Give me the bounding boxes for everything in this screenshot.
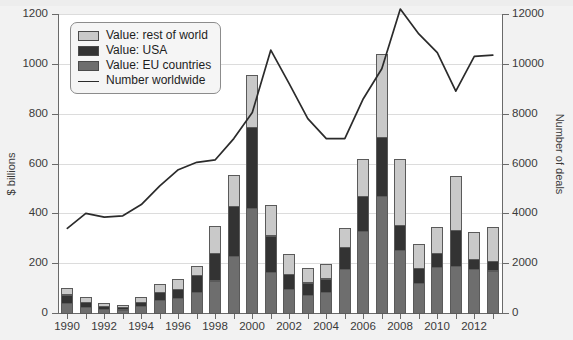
x-axis-tick-label: 1992 [84,320,124,332]
x-axis-tick-mark [345,314,346,319]
bar-segment-eu [376,196,388,314]
x-axis-tick-label: 1994 [121,320,161,332]
worldwide-line-swatch [78,76,99,86]
y-axis-left-tick-label: 1000 [22,58,48,69]
x-axis-tick-mark [141,314,142,319]
y-axis-left-tick-mark [52,64,58,65]
bar-segment-usa [302,283,314,296]
bar-segment-rest-of-world [283,254,295,275]
bar-segment-usa [468,259,480,270]
bar-segment-eu [172,298,184,314]
y-axis-left-line [58,14,59,313]
bar-segment-eu [302,295,314,314]
bar-segment-rest-of-world [135,297,147,303]
bar-segment-usa [61,295,73,304]
y-axis-right-title: Number of deals [554,99,566,209]
x-axis-tick-label: 2010 [417,320,457,332]
bar-segment-eu [61,303,73,314]
y-axis-right-tick-mark [503,64,509,65]
y-axis-left-tick-label: 800 [29,108,48,119]
bar-segment-usa [376,137,388,197]
legend-item-eu-countries: Value: EU countries [78,58,211,73]
x-axis-tick-mark [474,314,475,319]
x-axis-tick-mark [289,314,290,319]
y-axis-left-tick-mark [52,263,58,264]
bar-segment-rest-of-world [117,305,129,308]
bar-segment-usa [339,247,351,270]
x-axis-tick-mark [197,314,198,319]
bar-segment-rest-of-world [339,228,351,248]
y-axis-left-title: $ billions [5,134,17,214]
bar-segment-rest-of-world [376,54,388,138]
bar-segment-eu [320,292,332,314]
bar-segment-rest-of-world [61,288,73,295]
chart-container: 020040060080010001200 020004000600080001… [0,0,573,340]
y-axis-left-tick-mark [52,14,58,15]
legend-item-usa: Value: USA [78,43,211,58]
bar-segment-eu [135,306,147,314]
x-axis-tick-label: 2012 [454,320,494,332]
x-axis-tick-mark [234,314,235,319]
y-axis-right-tick-mark [503,263,509,264]
x-axis-tick-mark [308,314,309,319]
legend-label-eu-countries: Value: EU countries [106,59,211,72]
bar-segment-rest-of-world [172,279,184,290]
bar-segment-eu [117,310,129,314]
y-axis-right-tick-mark [503,313,509,314]
bar-segment-eu [191,292,203,314]
bar-segment-usa [283,274,295,290]
bar-segment-usa [431,253,443,268]
bar-segment-rest-of-world [302,268,314,283]
y-axis-left-tick-label: 200 [29,257,48,268]
x-axis-tick-mark [400,314,401,319]
x-axis-tick-mark [363,314,364,319]
y-axis-left-tick-mark [52,164,58,165]
bar-segment-eu [450,266,462,314]
y-axis-right-tick-mark [503,164,509,165]
x-axis-tick-mark [104,314,105,319]
x-axis-tick-mark [419,314,420,319]
bar-segment-eu [339,269,351,314]
bar-segment-rest-of-world [154,284,166,293]
x-axis-tick-mark [86,314,87,319]
bar-segment-rest-of-world [228,175,240,207]
usa-swatch [78,46,99,56]
x-axis-tick-mark [326,314,327,319]
chart-legend: Value: rest of world Value: USA Value: E… [70,22,221,94]
legend-label-usa: Value: USA [106,44,167,57]
x-axis-tick-label: 2004 [306,320,346,332]
y-axis-left-tick-label: 400 [29,207,48,218]
bar-segment-eu [413,283,425,314]
cropped-title-strip [0,0,573,6]
bar-segment-usa [394,225,406,251]
bar-segment-rest-of-world [80,297,92,303]
x-axis-tick-label: 2000 [232,320,272,332]
legend-item-rest-of-world: Value: rest of world [78,28,211,43]
x-axis-tick-mark [252,314,253,319]
bar-segment-rest-of-world [413,244,425,269]
rest-of-world-swatch [78,31,99,41]
y-axis-right-tick-label: 8000 [512,108,538,119]
bar-segment-usa [265,236,277,273]
x-axis-tick-label: 1990 [47,320,87,332]
x-axis-tick-label: 1996 [158,320,198,332]
bar-segment-rest-of-world [357,159,369,197]
y-axis-right-tick-label: 10000 [512,58,544,69]
gridline [59,213,502,214]
bar-segment-rest-of-world [246,75,258,128]
x-axis-tick-label: 2008 [380,320,420,332]
bar-segment-usa [209,253,221,281]
y-axis-right-tick-label: 4000 [512,207,538,218]
x-axis-tick-mark [67,314,68,319]
eu-swatch [78,61,99,71]
bar-segment-eu [394,249,406,314]
x-axis-tick-label: 2006 [343,320,383,332]
x-axis-tick-mark [215,314,216,319]
legend-label-number-worldwide: Number worldwide [106,74,205,87]
y-axis-right-tick-mark [503,213,509,214]
bar-segment-usa [191,275,203,293]
bar-segment-rest-of-world [98,303,110,307]
y-axis-left-tick-mark [52,114,58,115]
y-axis-left-tick-label: 600 [29,158,48,169]
bar-segment-eu [357,231,369,314]
